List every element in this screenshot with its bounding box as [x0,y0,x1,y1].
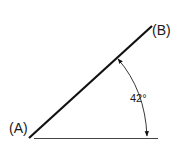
angle-value-label: 42° [130,92,147,104]
point-a-label: (A) [9,120,28,136]
point-b-label: (B) [152,22,171,38]
angle-diagram: (A) (B) 42° [0,0,185,160]
